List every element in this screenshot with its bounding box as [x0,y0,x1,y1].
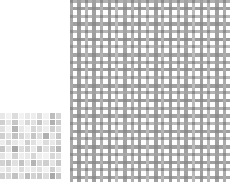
thread-crossing [154,45,158,48]
thread-crossing [100,176,103,179]
thread-crossing [223,145,226,149]
thread-crossing [138,45,141,48]
thread-crossing [154,145,158,149]
thread-crossing [192,91,195,94]
thread-crossing [161,53,164,57]
thread-crossing [161,7,164,10]
thread-crossing [77,168,81,171]
thread-crossing [223,122,226,125]
thread-crossing [169,53,172,57]
thread-crossing [70,153,73,156]
thread-crossing [131,122,134,125]
thread-crossing [131,76,134,79]
thread-crossing [207,99,210,102]
thread-crossing [161,122,164,125]
thread-crossing [146,68,149,71]
checker-cell [56,146,62,153]
thread-crossing [207,7,210,10]
thread-crossing [100,22,103,26]
thread-crossing [138,91,141,94]
thread-crossing [77,114,81,118]
thread-crossing [200,0,203,3]
thread-crossing [207,176,210,179]
thread-crossing [223,91,226,94]
thread-crossing [115,137,118,140]
thread-crossing [161,107,164,110]
thread-crossing [123,76,127,79]
thread-crossing [154,84,158,88]
thread-crossing [169,145,172,149]
thread-crossing [192,84,195,88]
thread-crossing [192,22,195,26]
checker-cell [56,126,62,133]
thread-crossing [200,7,203,10]
thread-crossing [215,99,219,102]
thread-crossing [108,84,111,88]
thread-crossing [85,0,88,3]
thread-crossing [223,38,226,41]
thread-crossing [154,15,158,18]
thread-crossing [169,7,172,10]
small-checker-swatch [0,113,62,180]
thread-crossing [207,53,210,57]
thread-crossing [177,114,180,118]
thread-crossing [200,53,203,57]
thread-crossing [85,15,88,18]
thread-crossing [215,7,219,10]
thread-crossing [70,99,73,102]
thread-crossing [123,0,127,3]
checker-cell [56,140,62,147]
thread-crossing [192,0,195,3]
thread-crossing [184,15,188,18]
thread-crossing [92,0,96,3]
thread-crossing [169,30,172,33]
thread-crossing [184,107,188,110]
thread-crossing [192,76,195,79]
thread-crossing [177,91,180,94]
thread-crossing [169,168,172,171]
thread-crossing [161,145,164,149]
thread-crossing [70,114,73,118]
thread-crossing [161,0,164,3]
thread-crossing [192,7,195,10]
thread-crossing [177,61,180,64]
thread-crossing [207,61,210,64]
thread-crossing [169,15,172,18]
thread-crossing [215,145,219,149]
thread-crossing [223,84,226,88]
thread-crossing [223,45,226,48]
thread-crossing [108,0,111,3]
thread-crossing [100,153,103,156]
thread-crossing [131,114,134,118]
thread-crossing [123,53,127,57]
thread-crossing [192,38,195,41]
thread-crossing [70,7,73,10]
thread-crossing [77,161,81,164]
thread-crossing [92,99,96,102]
thread-crossing [92,45,96,48]
thread-crossing [192,45,195,48]
thread-crossing [85,168,88,171]
thread-crossing [131,168,134,171]
thread-crossing [70,161,73,164]
thread-crossing [192,53,195,57]
thread-crossing [92,68,96,71]
thread-crossing [177,76,180,79]
thread-crossing [184,53,188,57]
thread-crossing [177,68,180,71]
thread-crossing [154,61,158,64]
thread-crossing [92,22,96,26]
thread-crossing [131,161,134,164]
thread-crossing [131,91,134,94]
thread-crossing [169,0,172,3]
thread-crossing [223,15,226,18]
thread-crossing [115,53,118,57]
thread-crossing [100,38,103,41]
thread-crossing [154,161,158,164]
thread-crossing [123,114,127,118]
thread-crossing [200,45,203,48]
thread-crossing [207,107,210,110]
thread-crossing [223,137,226,140]
thread-crossing [138,145,141,149]
thread-crossing [138,176,141,179]
